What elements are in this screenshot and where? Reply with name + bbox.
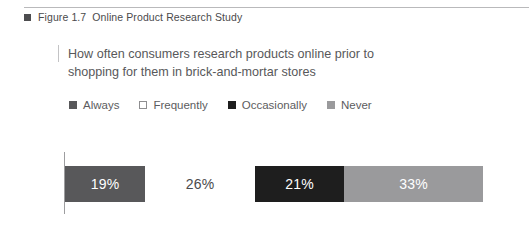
figure-number: Figure 1.7 <box>38 11 86 23</box>
legend-item-occasionally: Occasionally <box>228 99 307 111</box>
figure-title-text: Online Product Research Study <box>92 11 242 23</box>
figure-subtitle: How often consumers research products on… <box>58 45 428 81</box>
figure-title-row: Figure 1.7Online Product Research Study <box>24 11 242 23</box>
bar-segment-label-occasionally: 21% <box>285 176 314 192</box>
top-divider <box>24 7 529 8</box>
bar-segment-label-never: 33% <box>399 176 428 192</box>
legend-item-frequently: Frequently <box>139 99 207 111</box>
stacked-bar: 19% 26% 21% 33% <box>65 166 483 202</box>
legend-label-frequently: Frequently <box>153 99 207 111</box>
filled-square-icon <box>228 101 236 109</box>
subtitle-line-1: How often consumers research products on… <box>68 47 374 61</box>
subtitle-accent-rule <box>58 45 59 62</box>
filled-square-icon <box>69 101 77 109</box>
subtitle-text: How often consumers research products on… <box>68 45 428 81</box>
bar-segment-always: 19% <box>65 166 145 202</box>
bar-segment-never: 33% <box>344 166 483 202</box>
legend-label-never: Never <box>341 99 372 111</box>
filled-square-icon <box>327 101 335 109</box>
bar-segment-occasionally: 21% <box>255 166 344 202</box>
legend-item-never: Never <box>327 99 372 111</box>
legend-label-always: Always <box>83 99 119 111</box>
legend-item-always: Always <box>69 99 119 111</box>
chart-legend: Always Frequently Occasionally Never <box>69 99 372 111</box>
legend-label-occasionally: Occasionally <box>242 99 307 111</box>
subtitle-line-2: shopping for them in brick-and-mortar st… <box>68 65 316 79</box>
square-bullet-icon <box>24 14 31 21</box>
hollow-square-icon <box>139 101 147 109</box>
bar-segment-label-always: 19% <box>91 176 120 192</box>
bar-segment-label-frequently: 26% <box>186 176 215 192</box>
bar-segment-frequently: 26% <box>145 166 255 202</box>
page-title: Figure 1.7Online Product Research Study <box>38 11 242 23</box>
